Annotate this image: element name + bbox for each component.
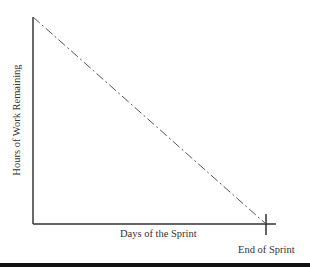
y-axis-label: Hours of Work Remaining xyxy=(11,64,22,175)
burndown-chart xyxy=(0,0,310,267)
bottom-rule xyxy=(0,263,310,267)
end-of-sprint-label: End of Sprint xyxy=(238,244,295,255)
ideal-burndown-line xyxy=(33,17,266,224)
x-axis-label: Days of the Sprint xyxy=(120,228,197,239)
